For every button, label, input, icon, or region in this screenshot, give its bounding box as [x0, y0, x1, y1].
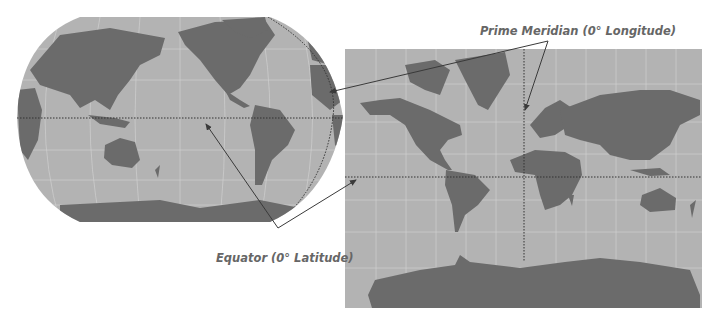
robinson-world-map — [10, 10, 350, 230]
prime-meridian-label: Prime Meridian (0° Longitude) — [480, 24, 676, 38]
map-figure — [0, 0, 713, 316]
equator-label: Equator (0° Latitude) — [216, 251, 354, 265]
mercator-world-map — [345, 49, 702, 308]
